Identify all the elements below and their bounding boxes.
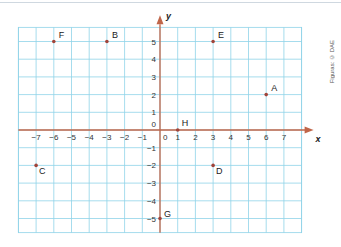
x-tick-label: 0 [163,133,168,142]
point-label-a: A [271,83,277,93]
point-d [211,164,215,168]
point-f [52,40,56,44]
x-tick-label: −4 [85,133,95,142]
point-label-b: B [112,30,118,40]
x-tick-label: −3 [102,133,112,142]
x-tick-label: −1 [138,133,148,142]
y-tick-label: −1 [147,144,157,153]
y-tick-label: 1 [152,108,157,117]
y-axis-arrow-icon [157,15,164,24]
y-tick-label: 2 [152,91,157,100]
y-tick-label: −5 [147,215,157,224]
x-tick-label: −2 [120,133,130,142]
y-axis-label: y [165,11,172,21]
x-tick-label: 7 [282,133,287,142]
x-tick-label: −6 [49,133,59,142]
x-tick-label: 1 [175,133,180,142]
coordinate-plane: xy−7−6−5−4−3−2−101234567543210−1−2−3−4−5… [0,0,341,247]
y-tick-label: −2 [147,161,157,170]
x-tick-label: 4 [229,133,234,142]
y-tick-label: 5 [152,38,157,47]
x-tick-label: 3 [211,133,216,142]
point-label-e: E [218,30,224,40]
x-tick-label: 2 [193,133,198,142]
point-h [176,128,180,132]
y-tick-label: 0 [152,120,157,129]
x-axis-label: x [315,134,322,144]
figure-credit: Figuras: © DAE [329,40,335,83]
x-tick-label: −7 [32,133,42,142]
point-c [34,164,38,168]
point-label-g: G [164,209,171,219]
y-tick-label: −4 [147,197,157,206]
point-a [264,93,268,97]
point-label-d: D [216,166,223,176]
y-tick-label: −3 [147,179,157,188]
y-tick-label: 3 [152,73,157,82]
point-e [211,40,215,44]
x-axis-arrow-icon [305,127,314,134]
y-tick-label: 4 [152,55,157,64]
point-label-c: C [39,166,46,176]
x-tick-label: 6 [264,133,269,142]
point-b [105,40,109,44]
x-tick-label: −5 [67,133,77,142]
point-g [158,217,162,221]
point-label-h: H [182,118,189,128]
point-label-f: F [59,30,65,40]
x-tick-label: 5 [246,133,251,142]
